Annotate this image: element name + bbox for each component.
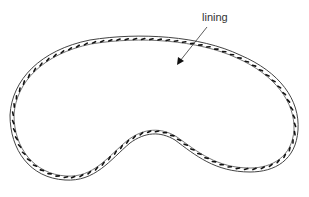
fastener-tick	[109, 40, 112, 41]
fastener-tick	[125, 39, 128, 40]
kidney-shape-illustration	[0, 0, 309, 197]
fastener-tick	[183, 42, 186, 43]
fastener-tick	[40, 170, 43, 171]
fastener-tick	[13, 112, 14, 115]
fastener-tick	[13, 120, 14, 123]
arrowhead-icon	[177, 57, 184, 65]
fastener-tick	[155, 131, 158, 132]
lining-fasteners	[13, 38, 296, 177]
fastener-tick	[72, 176, 75, 177]
fastener-tick	[184, 144, 187, 145]
fastener-tick	[142, 39, 145, 40]
fastener-tick	[117, 39, 120, 40]
fastener-tick	[64, 177, 67, 178]
fastener-tick	[236, 168, 239, 169]
fastener-tick	[133, 38, 136, 39]
fastener-tick	[23, 81, 24, 84]
fastener-tick	[294, 123, 295, 126]
fastener-tick	[295, 132, 296, 135]
fastener-tick	[253, 168, 256, 169]
fastener-tick	[148, 131, 151, 133]
fastener-tick	[166, 40, 169, 41]
lining-pointer-arrow	[177, 27, 207, 65]
fastener-tick	[259, 70, 262, 71]
fastener-tick	[178, 139, 181, 140]
fastener-tick	[101, 41, 104, 42]
fastener-tick	[245, 61, 248, 62]
diagram-canvas: lining	[0, 0, 309, 197]
fastener-tick	[205, 158, 208, 159]
lining-label: lining	[202, 10, 228, 24]
fastener-tick	[252, 65, 255, 66]
fastener-tick	[150, 39, 153, 40]
fastener-tick	[245, 169, 248, 170]
fastener-tick	[289, 148, 290, 151]
fastener-tick	[34, 165, 37, 166]
fastener-tick	[19, 88, 20, 91]
fastener-tick	[198, 154, 201, 155]
fastener-tick	[171, 135, 174, 136]
fastener-tick	[191, 149, 194, 150]
fastener-tick	[158, 39, 161, 40]
fastener-tick	[174, 41, 177, 42]
